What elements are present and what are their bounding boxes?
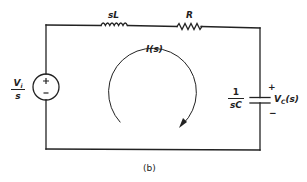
figure-caption: (b) bbox=[143, 164, 156, 173]
circuit-diagram bbox=[0, 0, 307, 182]
arrowhead-icon bbox=[179, 118, 187, 128]
wire-top-right bbox=[201, 27, 260, 29]
source-label-sub: i bbox=[20, 82, 22, 89]
inductor-symbol bbox=[101, 23, 127, 26]
fraction-bar bbox=[228, 98, 244, 99]
voltage-source-symbol bbox=[33, 74, 59, 100]
source-label-den: s bbox=[11, 92, 25, 101]
loop-current-label: I(s) bbox=[146, 45, 163, 54]
capacitor-voltage-v: V bbox=[274, 94, 281, 104]
fraction-bar bbox=[11, 89, 25, 90]
loop-current-arc bbox=[108, 48, 196, 124]
capacitor-label-den: sC bbox=[228, 101, 244, 110]
capacitor-voltage-sub: C bbox=[281, 98, 285, 105]
capacitor-minus-sign: − bbox=[269, 109, 277, 118]
resistor-symbol bbox=[177, 24, 202, 30]
wire-top-left bbox=[46, 25, 101, 26]
wire-bottom bbox=[46, 149, 260, 150]
resistor-label: R bbox=[186, 11, 193, 20]
capacitor-plus-sign: + bbox=[268, 83, 276, 92]
capacitor-voltage-label: VC(s) bbox=[274, 95, 299, 104]
source-label: Vi s bbox=[11, 79, 25, 101]
capacitor-impedance-label: 1 sC bbox=[228, 88, 244, 110]
capacitor-label-num: 1 bbox=[228, 88, 244, 97]
source-plus-sign bbox=[43, 78, 49, 84]
capacitor-voltage-arg: (s) bbox=[285, 94, 299, 104]
inductor-label: sL bbox=[108, 11, 119, 20]
wire-top-middle bbox=[127, 26, 177, 27]
